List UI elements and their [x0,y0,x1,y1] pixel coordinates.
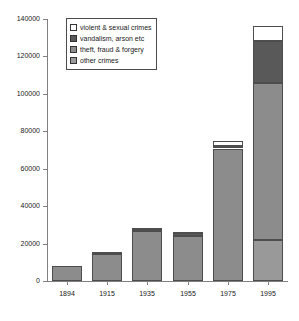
legend-item: theft, fraud & forgery [70,44,152,55]
x-tick-mark [188,281,189,285]
bar-group [173,19,203,281]
bar-segment [213,146,243,148]
stacked-bar-chart: 020000400006000080000100000120000140000 … [0,0,299,321]
bar-segment [132,228,162,231]
y-tick-label: 120000 [0,52,40,59]
legend-item-label: other crimes [80,57,119,65]
y-tick-mark [43,94,48,95]
y-tick-mark [43,56,48,57]
y-tick-mark [43,281,48,282]
y-tick-label: 0 [0,277,40,284]
y-tick-label: 100000 [0,90,40,97]
bar-segment [173,236,203,281]
y-tick-mark [43,206,48,207]
bar-segment [132,231,162,281]
bar-segment [52,266,82,281]
y-tick-mark [43,131,48,132]
y-axis-line [47,19,48,282]
legend-item-label: vandalism, arson etc [80,35,144,43]
x-tick-mark [147,281,148,285]
x-tick-mark [107,281,108,285]
x-tick-label: 1935 [127,290,167,298]
x-tick-label: 1915 [87,290,127,298]
y-tick-label: 60000 [0,165,40,172]
bar-segment [213,149,243,281]
bar-segment [253,26,283,42]
bar-segment [173,232,203,234]
y-tick-mark [43,19,48,20]
x-tick-label: 1894 [47,290,87,298]
legend-swatch-icon [70,24,77,31]
bar-segment [92,252,122,254]
legend-swatch-icon [70,35,77,42]
y-tick-mark [43,169,48,170]
legend-item: violent & sexual crimes [70,22,152,33]
x-tick-mark [67,281,68,285]
x-tick-label: 1975 [208,290,248,298]
bar-segment [253,83,283,240]
bar-group [253,19,283,281]
bar-segment [132,230,162,232]
x-tick-label: 1995 [248,290,288,298]
bar-segment [213,141,243,147]
legend-item: vandalism, arson etc [70,33,152,44]
legend-item-label: theft, fraud & forgery [80,46,144,54]
y-tick-mark [43,244,48,245]
legend-swatch-icon [70,57,77,64]
legend-swatch-icon [70,46,77,53]
bar-segment [253,41,283,82]
bar-segment [253,240,283,281]
x-tick-label: 1955 [168,290,208,298]
x-tick-mark [268,281,269,285]
y-tick-label: 40000 [0,202,40,209]
y-tick-label: 80000 [0,127,40,134]
y-tick-label: 20000 [0,240,40,247]
y-tick-label: 140000 [0,15,40,22]
bar-segment [92,254,122,281]
chart-legend: violent & sexual crimesvandalism, arson … [66,18,157,70]
x-axis-line [47,281,288,282]
legend-item-label: violent & sexual crimes [80,24,152,32]
legend-item: other crimes [70,55,152,66]
bar-group [213,19,243,281]
x-tick-mark [228,281,229,285]
